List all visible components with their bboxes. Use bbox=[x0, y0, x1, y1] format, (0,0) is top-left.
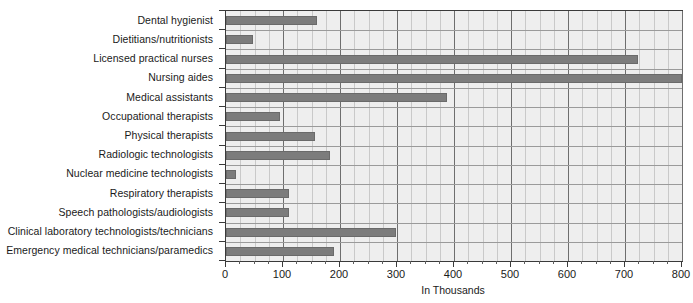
category-label: Licensed practical nurses bbox=[0, 48, 219, 67]
x-tick-major bbox=[453, 261, 454, 267]
x-tick-major bbox=[510, 261, 511, 267]
x-tick-major bbox=[282, 261, 283, 267]
bar-row bbox=[226, 69, 682, 88]
category-label: Occupational therapists bbox=[0, 106, 219, 125]
x-tick-label: 800 bbox=[672, 268, 690, 280]
x-tick-minor bbox=[311, 261, 312, 264]
bar-chart: Dental hygienistDietitians/nutritionists… bbox=[0, 0, 693, 303]
x-tick-minor bbox=[368, 261, 369, 264]
x-tick-minor bbox=[581, 261, 582, 264]
bar bbox=[226, 132, 315, 141]
x-tick-minor bbox=[524, 261, 525, 264]
x-tick-minor bbox=[496, 261, 497, 264]
bar-row bbox=[226, 184, 682, 203]
x-tick-minor bbox=[353, 261, 354, 264]
gridline-major bbox=[682, 11, 683, 261]
bar-row bbox=[226, 11, 682, 30]
bar-row bbox=[226, 107, 682, 126]
x-tick-major bbox=[681, 261, 682, 267]
category-axis-labels: Dental hygienistDietitians/nutritionists… bbox=[0, 10, 219, 260]
x-tick-minor bbox=[467, 261, 468, 264]
bar bbox=[226, 189, 289, 198]
category-label: Dental hygienist bbox=[0, 10, 219, 29]
category-label: Medical assistants bbox=[0, 87, 219, 106]
category-label: Respiratory therapists bbox=[0, 183, 219, 202]
bar bbox=[226, 55, 638, 64]
bar bbox=[226, 228, 396, 237]
x-tick-minor bbox=[539, 261, 540, 264]
bar bbox=[226, 170, 236, 179]
x-tick-minor bbox=[382, 261, 383, 264]
category-label: Clinical laboratory technologists/techni… bbox=[0, 222, 219, 241]
bar bbox=[226, 208, 289, 217]
x-tick-major bbox=[624, 261, 625, 267]
x-tick-minor bbox=[254, 261, 255, 264]
x-tick-major bbox=[396, 261, 397, 267]
x-tick-minor bbox=[410, 261, 411, 264]
x-tick-label: 400 bbox=[444, 268, 462, 280]
category-label: Nursing aides bbox=[0, 68, 219, 87]
x-tick-minor bbox=[425, 261, 426, 264]
x-tick-minor bbox=[296, 261, 297, 264]
bar bbox=[226, 151, 330, 160]
bar-row bbox=[226, 30, 682, 49]
x-tick-minor bbox=[596, 261, 597, 264]
x-tick-minor bbox=[638, 261, 639, 264]
x-tick-major bbox=[567, 261, 568, 267]
x-tick-label: 600 bbox=[558, 268, 576, 280]
x-tick-minor bbox=[653, 261, 654, 264]
bar bbox=[226, 74, 682, 83]
x-tick-major bbox=[339, 261, 340, 267]
bar-row bbox=[226, 203, 682, 222]
category-label: Radiologic technologists bbox=[0, 145, 219, 164]
bar-row bbox=[226, 146, 682, 165]
x-tick-minor bbox=[239, 261, 240, 264]
x-tick-minor bbox=[610, 261, 611, 264]
x-tick-label: 200 bbox=[330, 268, 348, 280]
x-tick-minor bbox=[439, 261, 440, 264]
x-tick-label: 100 bbox=[273, 268, 291, 280]
x-axis-title: In Thousands bbox=[225, 284, 681, 296]
category-label: Dietitians/nutritionists bbox=[0, 29, 219, 48]
x-tick-minor bbox=[482, 261, 483, 264]
bar bbox=[226, 35, 253, 44]
bar-row bbox=[226, 242, 682, 261]
bar-series bbox=[226, 11, 682, 261]
bar-row bbox=[226, 88, 682, 107]
bar bbox=[226, 16, 317, 25]
x-tick-major bbox=[225, 261, 226, 267]
category-label: Speech pathologists/audiologists bbox=[0, 202, 219, 221]
x-tick-label: 700 bbox=[615, 268, 633, 280]
x-tick-label: 500 bbox=[501, 268, 519, 280]
category-label: Emergency medical technicians/paramedics bbox=[0, 241, 219, 260]
bar-row bbox=[226, 165, 682, 184]
x-tick-minor bbox=[667, 261, 668, 264]
category-label: Physical therapists bbox=[0, 125, 219, 144]
bar bbox=[226, 112, 280, 121]
bar bbox=[226, 93, 447, 102]
bar bbox=[226, 247, 334, 256]
x-tick-label: 300 bbox=[387, 268, 405, 280]
bar-row bbox=[226, 223, 682, 242]
x-tick-minor bbox=[268, 261, 269, 264]
category-label: Nuclear medicine technologists bbox=[0, 164, 219, 183]
x-tick-minor bbox=[553, 261, 554, 264]
x-tick-minor bbox=[325, 261, 326, 264]
bar-row bbox=[226, 126, 682, 145]
x-tick-label: 0 bbox=[222, 268, 228, 280]
bar-row bbox=[226, 49, 682, 68]
plot-area bbox=[225, 10, 683, 262]
